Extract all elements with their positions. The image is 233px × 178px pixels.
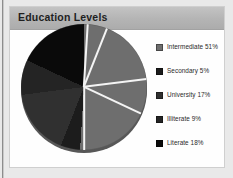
pie-chart-separators [21, 24, 147, 150]
legend-swatch-icon [156, 68, 163, 75]
legend-item-university[interactable]: University 17% [156, 91, 222, 115]
legend-item-secondary[interactable]: Secondary 5% [156, 67, 222, 91]
legend-swatch-icon [156, 116, 163, 123]
education-levels-card: Education Levels Intermediate 51%Seconda… [9, 6, 225, 168]
legend-item-illiterate[interactable]: Illiterate 9% [156, 115, 222, 139]
legend-item-label: Illiterate 9% [167, 115, 201, 123]
legend-item-literate[interactable]: Literate 18% [156, 139, 222, 163]
legend-swatch-icon [156, 140, 163, 147]
card-body: Intermediate 51%Secondary 5%University 1… [10, 31, 224, 168]
legend-swatch-icon [156, 44, 163, 51]
legend-item-intermediate[interactable]: Intermediate 51% [156, 43, 222, 67]
legend-swatch-icon [156, 92, 163, 99]
page-left-rule-highlight [3, 0, 4, 178]
legend-item-label: University 17% [167, 91, 210, 99]
pie-slice-separator [84, 86, 142, 114]
pie-slice-separator [84, 78, 147, 87]
legend-item-label: Literate 18% [167, 139, 203, 147]
pie-slice-separator [83, 87, 85, 150]
legend-item-label: Secondary 5% [167, 67, 209, 75]
pie-chart [18, 20, 150, 152]
screenshot-root: Education Levels Intermediate 51%Seconda… [0, 0, 233, 178]
chart-legend: Intermediate 51%Secondary 5%University 1… [156, 43, 222, 163]
legend-item-label: Intermediate 51% [167, 43, 218, 51]
